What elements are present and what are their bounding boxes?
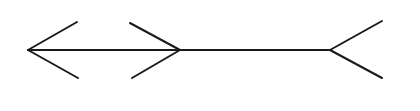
left-arrowhead-lower-line — [28, 50, 78, 78]
diagram-svg — [0, 0, 420, 111]
middle-arrowhead-lower-line — [132, 50, 180, 78]
right-fin-lower-line — [330, 50, 382, 78]
left-arrowhead-upper-line — [28, 22, 77, 50]
muller-lyer-diagram — [0, 0, 420, 111]
middle-arrowhead-upper-line — [130, 23, 180, 50]
right-fin-upper-line — [330, 21, 382, 50]
